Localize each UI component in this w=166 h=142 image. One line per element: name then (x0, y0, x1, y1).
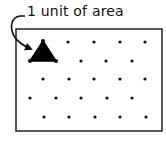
lattice-dot (130, 59, 133, 62)
lattice-dot (118, 77, 121, 80)
lattice-dot (28, 96, 31, 99)
lattice-dot (41, 39, 45, 43)
lattice-dot (79, 59, 82, 62)
lattice-frame (16, 29, 162, 131)
lattice-dot (66, 40, 69, 43)
dot-lattice-diagram (0, 0, 166, 142)
lattice-dot (92, 40, 95, 43)
lattice-dot (118, 40, 121, 43)
lattice-dot (67, 77, 70, 80)
lattice-dot (143, 40, 146, 43)
lattice-dot (42, 115, 45, 118)
lattice-dot (92, 77, 95, 80)
lattice-dot (54, 96, 57, 99)
lattice-dot (104, 59, 107, 62)
lattice-dot (54, 59, 58, 63)
lattice-dot (130, 96, 133, 99)
lattice-dot (28, 59, 32, 63)
lattice-dot (118, 115, 121, 118)
lattice-dot (144, 115, 147, 118)
unit-triangle (30, 41, 56, 61)
lattice-dot (143, 77, 146, 80)
lattice-dot (93, 115, 96, 118)
lattice-dot (105, 96, 108, 99)
lattice-dot (67, 115, 70, 118)
lattice-dot (79, 96, 82, 99)
lattice-dot (41, 77, 44, 80)
pointer-arrow (12, 16, 31, 49)
